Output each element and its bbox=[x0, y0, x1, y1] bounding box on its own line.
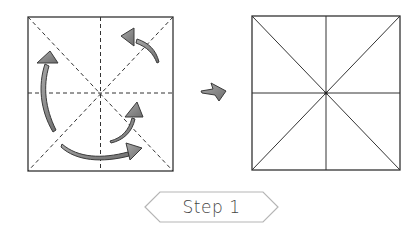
after-square bbox=[252, 16, 400, 170]
next-arrow-icon bbox=[201, 83, 226, 101]
before-square bbox=[28, 17, 173, 171]
step-label: Step 1 bbox=[145, 191, 278, 223]
